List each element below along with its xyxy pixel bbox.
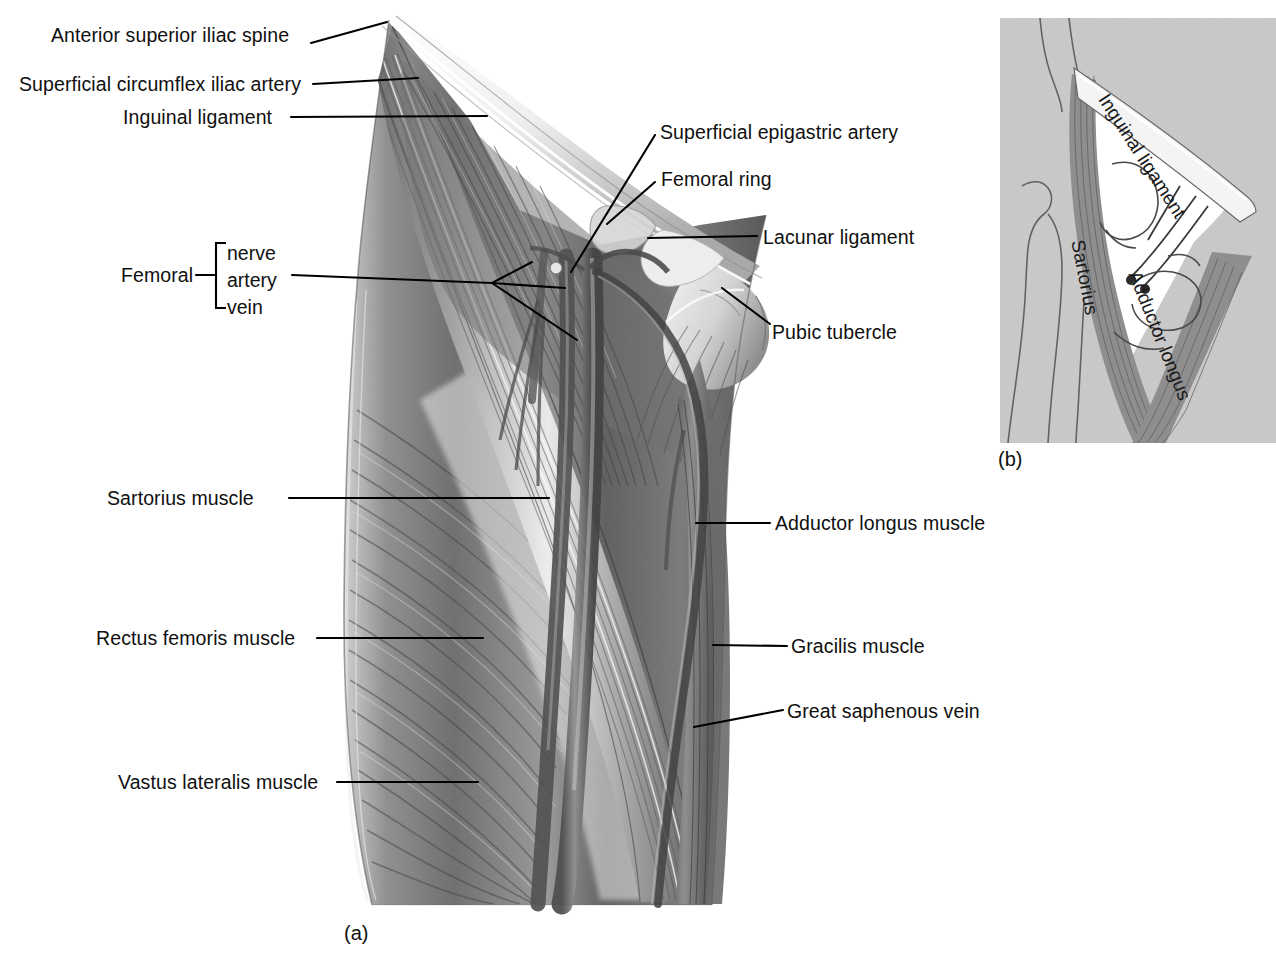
caption-panel-a: (a) xyxy=(344,922,368,945)
femoral-group-label-wrap: Femoral xyxy=(121,262,193,288)
label-inguinal-ligament: Inguinal ligament xyxy=(123,104,272,130)
leader-gracilis-muscle xyxy=(713,645,787,646)
femoral-bracket xyxy=(216,243,226,308)
label-superficial-circumflex-iliac-artery: Superficial circumflex iliac artery xyxy=(19,71,301,97)
label-femoral-ring: Femoral ring xyxy=(661,166,772,192)
panel-a-illustration xyxy=(0,0,1276,962)
label-superficial-epigastric-artery: Superficial epigastric artery xyxy=(660,119,898,145)
label-rectus-femoris-muscle: Rectus femoris muscle xyxy=(96,625,295,651)
caption-panel-b: (b) xyxy=(998,448,1022,471)
leader-anterior-superior-iliac-spine xyxy=(311,22,387,43)
label-vastus-lateralis-muscle: Vastus lateralis muscle xyxy=(118,769,318,795)
label-gracilis-muscle: Gracilis muscle xyxy=(791,633,925,659)
label-femoral-artery: artery xyxy=(227,267,277,294)
leader-inguinal-ligament xyxy=(291,116,487,117)
panel-b-illustration xyxy=(1000,18,1276,443)
label-great-saphenous-vein: Great saphenous vein xyxy=(787,698,980,724)
label-femoral-vein: vein xyxy=(227,294,263,321)
label-lacunar-ligament: Lacunar ligament xyxy=(763,224,914,250)
label-pubic-tubercle: Pubic tubercle xyxy=(772,319,897,345)
label-sartorius-muscle: Sartorius muscle xyxy=(107,485,254,511)
label-anterior-superior-iliac-spine: Anterior superior iliac spine xyxy=(51,22,289,48)
figure-root: Anterior superior iliac spine Superficia… xyxy=(0,0,1276,962)
label-femoral-nerve: nerve xyxy=(227,240,276,267)
label-adductor-longus-muscle: Adductor longus muscle xyxy=(775,510,985,536)
label-femoral-group: Femoral xyxy=(121,264,193,286)
